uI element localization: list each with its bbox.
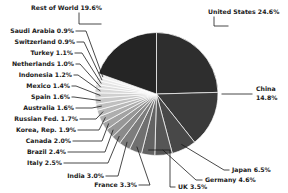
pie-label-korea-rep: Korea, Rep. 1.9% — [16, 126, 76, 134]
leader-line-germany — [163, 150, 202, 180]
pie-label-united-states: United States 24.6% — [208, 8, 279, 15]
pie-label-indonesia: Indonesia 1.2% — [19, 71, 72, 78]
pie-label-russian-fed: Russian Fed. 1.7% — [14, 115, 78, 122]
pie-label-uk: UK 3.5% — [178, 183, 207, 190]
leader-line-canada — [73, 124, 109, 141]
pie-chart-svg: Saudi Arabia 0.9%Switzerland 0.9%Turkey … — [0, 0, 288, 193]
leader-line-united-states — [214, 17, 228, 26]
pie-label-germany: Germany 4.6% — [205, 176, 256, 184]
pie-label-china: China — [256, 85, 276, 92]
pie-label-switzerland: Switzerland 0.9% — [14, 38, 75, 45]
leader-line-italy — [64, 137, 119, 164]
pie-label-china-value: 14.8% — [256, 94, 277, 101]
pie-slices-group — [95, 33, 218, 156]
pie-label-mexico: Mexico 1.4% — [26, 82, 70, 89]
leader-line-rest-of-world — [79, 13, 101, 24]
pie-label-canada: Canada 2.0% — [26, 137, 71, 144]
pie-chart-figure: Saudi Arabia 0.9%Switzerland 0.9%Turkey … — [0, 0, 288, 193]
leader-line-india — [106, 142, 127, 176]
pie-slice-united-states — [157, 33, 218, 95]
pie-label-rest-of-world: Rest of World 19.6% — [31, 4, 102, 11]
pie-label-france: France 3.3% — [94, 181, 137, 188]
pie-label-italy: Italy 2.5% — [27, 159, 62, 167]
pie-label-india: India 3.0% — [67, 172, 104, 179]
pie-label-turkey: Turkey 1.1% — [31, 49, 74, 57]
pie-label-netherlands: Netherlands 1.0% — [12, 60, 74, 67]
pie-label-australia: Australia 1.6% — [23, 104, 74, 111]
pie-label-saudi-arabia: Saudi Arabia 0.9% — [10, 27, 74, 34]
leader-line-japan — [182, 145, 229, 170]
pie-label-japan: Japan 6.5% — [231, 166, 271, 174]
pie-label-brazil: Brazil 2.4% — [27, 148, 66, 155]
pie-label-spain: Spain 1.6% — [31, 93, 70, 101]
